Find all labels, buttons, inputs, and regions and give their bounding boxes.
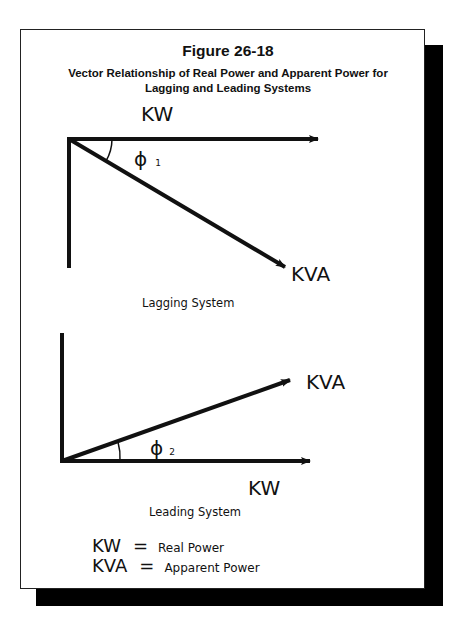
- leading-diagram: [60, 333, 310, 462]
- legend-symbol: KVA: [92, 555, 127, 576]
- lagging-kva-vector: [69, 139, 285, 267]
- legend-meaning: Apparent Power: [164, 561, 259, 575]
- phi-symbol: ϕ: [150, 436, 163, 460]
- legend-row-kw: KW = Real Power: [92, 535, 224, 556]
- leading-kw-label: KW: [248, 476, 280, 500]
- leading-angle-arc: [118, 442, 120, 461]
- phi-subscript: 2: [169, 447, 175, 457]
- leading-angle-label: ϕ2: [150, 436, 175, 460]
- lagging-caption: Lagging System: [142, 296, 234, 310]
- leading-kva-label: KVA: [306, 370, 345, 394]
- lagging-angle-arc: [106, 139, 112, 161]
- leading-kva-vector: [62, 380, 290, 461]
- lagging-kw-label: KW: [141, 102, 173, 126]
- legend-row-kva: KVA = Apparent Power: [92, 555, 260, 576]
- leading-caption: Leading System: [149, 505, 241, 519]
- lagging-kva-label: KVA: [291, 262, 330, 286]
- phi-subscript: 1: [155, 158, 161, 168]
- legend-equals: =: [133, 535, 148, 556]
- lagging-diagram: [67, 139, 318, 268]
- legend-equals: =: [139, 555, 154, 576]
- lagging-angle-label: ϕ1: [134, 147, 161, 171]
- vector-diagrams: [0, 0, 456, 627]
- legend-symbol: KW: [92, 535, 121, 556]
- phi-symbol: ϕ: [134, 147, 147, 171]
- legend-meaning: Real Power: [158, 541, 224, 555]
